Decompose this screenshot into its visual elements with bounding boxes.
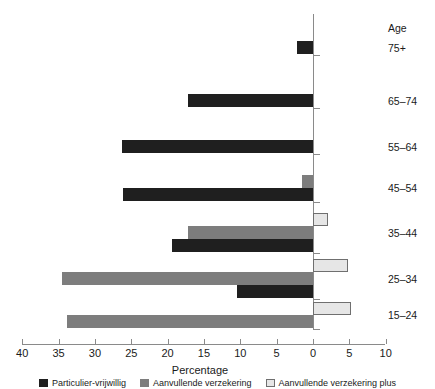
x-axis-title: Percentage	[0, 364, 400, 376]
x-axis-tick	[204, 339, 205, 344]
category-label: 75+	[388, 42, 406, 54]
x-axis-tick	[386, 339, 387, 344]
zero-axis-line	[313, 14, 314, 330]
x-axis-tick	[59, 339, 60, 344]
category-label: 25–34	[388, 273, 417, 285]
chart-legend: Particulier-vrijwilligAanvullende verzek…	[0, 378, 435, 389]
category-tick	[314, 108, 320, 109]
x-axis-tick-label: 40	[16, 347, 28, 359]
category-label: 15–24	[388, 309, 417, 321]
x-axis-tick-label: 0	[310, 347, 316, 359]
category-tick	[314, 202, 320, 203]
x-axis-tick	[168, 339, 169, 344]
x-axis-tick-label: 20	[161, 347, 173, 359]
category-label: 65–74	[388, 95, 417, 107]
bar	[297, 41, 313, 54]
category-tick	[314, 329, 320, 330]
bar	[313, 259, 348, 272]
x-axis-tick	[349, 339, 350, 344]
category-tick	[314, 55, 320, 56]
category-tick	[314, 154, 320, 155]
x-axis-tick	[22, 339, 23, 344]
x-axis-tick-label: 10	[234, 347, 246, 359]
category-tick	[314, 299, 320, 300]
x-axis-tick	[277, 339, 278, 344]
x-axis-tick	[240, 339, 241, 344]
category-tick	[314, 253, 320, 254]
x-axis-tick-label: 35	[52, 347, 64, 359]
legend-label: Aanvullende verzekering	[153, 378, 252, 388]
x-axis-line	[22, 344, 385, 345]
age-percentage-bar-chart: 4035302520151050510 Percentage Age 75+65…	[0, 0, 435, 389]
legend-label: Particulier-vrijwillig	[52, 378, 126, 388]
x-axis-tick-label: 5	[346, 347, 352, 359]
x-axis-tick-label: 25	[125, 347, 137, 359]
bar	[172, 239, 313, 252]
legend-swatch-dark	[39, 379, 48, 387]
x-axis-tick	[131, 339, 132, 344]
bar	[313, 302, 351, 315]
x-axis-tick-label: 10	[380, 347, 392, 359]
bar	[302, 175, 313, 188]
bar	[122, 140, 313, 153]
bar	[237, 285, 313, 298]
legend-item: Aanvullende verzekering plus	[266, 378, 397, 388]
category-axis-header: Age	[388, 22, 407, 34]
x-axis-tick-label: 15	[198, 347, 210, 359]
bar	[62, 272, 313, 285]
legend-swatch-medium	[140, 379, 149, 387]
plot-area: 4035302520151050510 Percentage	[0, 14, 400, 332]
category-label: 35–44	[388, 227, 417, 239]
bar	[313, 213, 328, 226]
x-axis-tick	[95, 339, 96, 344]
bar	[188, 94, 313, 107]
x-axis-tick-label: 5	[274, 347, 280, 359]
x-axis-tick-label: 30	[89, 347, 101, 359]
legend-label: Aanvullende verzekering plus	[279, 378, 397, 388]
x-axis-tick	[313, 339, 314, 344]
legend-item: Particulier-vrijwillig	[39, 378, 126, 388]
bar	[188, 226, 313, 239]
legend-item: Aanvullende verzekering	[140, 378, 252, 388]
bar	[123, 188, 313, 201]
bar	[67, 315, 313, 328]
category-label: 45–54	[388, 182, 417, 194]
category-label: 55–64	[388, 141, 417, 153]
legend-swatch-light	[266, 379, 275, 387]
